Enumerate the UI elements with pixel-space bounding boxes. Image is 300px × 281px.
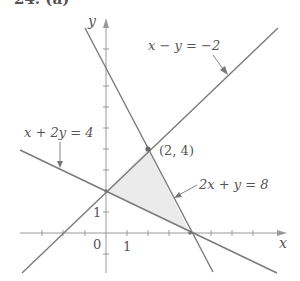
- y-axis: [103, 24, 109, 273]
- graph: 24. (a): [0, 0, 300, 281]
- x-axis: [20, 230, 283, 236]
- y-axis-label: y: [87, 13, 97, 29]
- vertex-point-4-0: [188, 231, 192, 235]
- y-tick-label: 1: [93, 205, 101, 220]
- point-label: (2, 4): [159, 143, 194, 158]
- feasible-region: [106, 149, 190, 233]
- equation-label-x-plus-2y: x + 2y = 4: [24, 125, 94, 140]
- x-axis-label: x: [279, 235, 287, 251]
- y-axis-arrow-icon: [103, 18, 109, 28]
- origin-label: 0: [93, 237, 101, 252]
- arrow-head-icon: [174, 192, 182, 198]
- vertex-point: [145, 146, 150, 151]
- equation-label-2x-plus-y: 2x + y = 8: [198, 177, 269, 192]
- vertex-point-0-2: [104, 189, 108, 193]
- problem-label: 24. (a): [14, 0, 69, 8]
- arrow-head-icon: [220, 66, 228, 75]
- equation-label-x-minus-y: x − y = −2: [148, 38, 220, 53]
- arrow-head-icon: [57, 161, 63, 168]
- x-tick-label: 1: [123, 239, 131, 254]
